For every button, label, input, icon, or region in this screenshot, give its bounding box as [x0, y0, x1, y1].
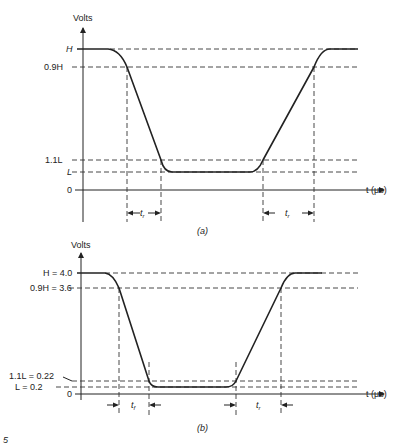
interval-label-b-1: tf: [131, 400, 137, 411]
caption-b: (b): [197, 423, 208, 433]
panel-b: Volts t (μs) H = 4.0 0.9H = 3.6 1.1L = 0…: [9, 240, 387, 433]
leader-line-1.1L: [63, 377, 72, 381]
x-axis-label-a: t (μs): [366, 185, 387, 195]
interval-label-b-2: tr: [256, 400, 262, 411]
y-axis-label-b: Volts: [71, 240, 91, 250]
level-label-0.9H-b: 0.9H = 3.6: [30, 283, 72, 293]
panel-a: Volts t (μs) H 0.9H 1.1L L 0 tr tr (a: [44, 13, 387, 236]
level-label-zero-a: 0: [67, 185, 72, 195]
y-axis-label-a: Volts: [73, 13, 93, 23]
level-label-L-a: L: [67, 167, 72, 177]
level-label-1.1L-b: 1.1L = 0.22: [9, 371, 54, 381]
waveform-b: [77, 273, 322, 387]
level-label-zero-b: 0: [67, 389, 72, 399]
interval-label-a-2: tr: [285, 208, 291, 219]
interval-label-a-1: tr: [140, 208, 146, 219]
rise-fall-time-figure: Volts t (μs) H 0.9H 1.1L L 0 tr tr (a: [0, 0, 404, 445]
corner-mark: 5: [3, 435, 9, 445]
caption-a: (a): [197, 226, 208, 236]
x-axis-label-b: t (μs): [366, 389, 387, 399]
level-label-1.1L-a: 1.1L: [45, 155, 63, 165]
level-label-L-b: L = 0.2: [15, 382, 42, 392]
level-label-H-a: H: [66, 44, 73, 54]
level-label-H-b: H = 4.0: [43, 268, 72, 278]
level-label-0.9H-a: 0.9H: [44, 62, 63, 72]
